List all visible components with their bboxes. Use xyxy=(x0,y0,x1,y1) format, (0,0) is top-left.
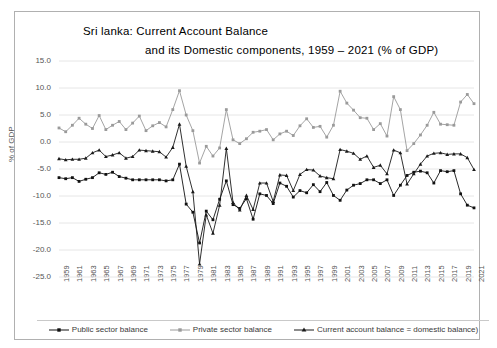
legend-divider xyxy=(37,320,489,321)
legend-item-label: Current account balance = domestic balan… xyxy=(317,325,478,334)
chart-frame: Sri lanka: Current Account Balance and i… xyxy=(14,11,480,340)
legend-item[interactable]: Private sector balance xyxy=(170,325,272,334)
chart-screenshot: Sri lanka: Current Account Balance and i… xyxy=(0,0,497,348)
legend-marker-triangle-icon xyxy=(294,326,314,334)
legend-marker-square-icon xyxy=(49,326,69,334)
legend-marker-square-icon xyxy=(170,326,190,334)
plot-area xyxy=(15,12,481,341)
chart-legend: Public sector balancePrivate sector bala… xyxy=(15,325,497,334)
legend-item-label: Private sector balance xyxy=(193,325,272,334)
legend-item[interactable]: Public sector balance xyxy=(49,325,148,334)
legend-item[interactable]: Current account balance = domestic balan… xyxy=(294,325,478,334)
legend-item-label: Public sector balance xyxy=(72,325,148,334)
